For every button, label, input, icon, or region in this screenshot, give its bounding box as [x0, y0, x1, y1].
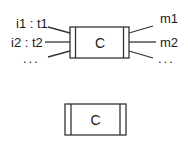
- top-component-label: C: [76, 36, 124, 50]
- output-label-2: m2: [160, 36, 178, 49]
- bottom-component-label: C: [71, 113, 120, 127]
- input-label-ellipsis: ...: [23, 52, 40, 65]
- output-label-1: m1: [160, 12, 178, 25]
- input-label-2: i2 : t2: [11, 36, 43, 49]
- input-label-1: i1 : t1: [16, 17, 48, 30]
- output-label-ellipsis: ...: [158, 52, 175, 65]
